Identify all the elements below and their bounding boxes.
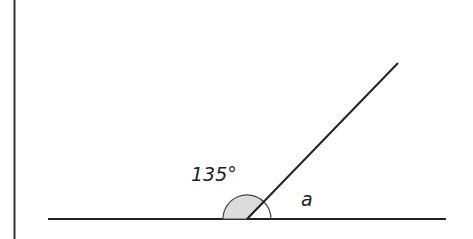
unknown-angle-label: a	[301, 188, 313, 210]
ray-line	[247, 63, 398, 219]
known-angle-label: 135°	[191, 163, 237, 185]
angle-arc-a	[264, 202, 271, 219]
angle-diagram: 135° a	[0, 0, 473, 239]
